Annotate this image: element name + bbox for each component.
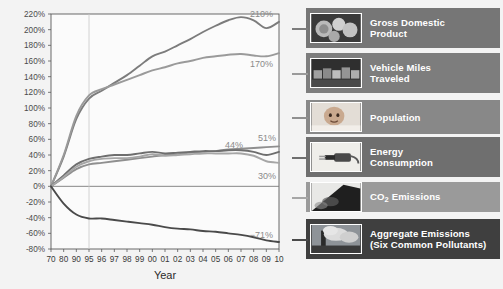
series-end-label: 51%	[258, 133, 276, 143]
x-axis-tick-label: 02	[173, 255, 183, 264]
legend-item-4[interactable]: EnergyConsumption	[306, 137, 500, 177]
legend-label-line-2: Consumption	[370, 157, 433, 168]
chart-plot-area: 220%200%180%160%140%120%100%80%60%40%20%…	[0, 0, 292, 289]
x-axis-tick-label: 09	[262, 255, 272, 264]
legend-connector-line	[292, 117, 308, 119]
legend-item-label: Aggregate Emissions(Six Common Pollutant…	[370, 228, 486, 250]
x-axis-tick-label: 96	[97, 255, 107, 264]
legend-label-line-1: CO2 Emissions	[370, 191, 441, 203]
y-axis-tick-label: 220%	[24, 10, 45, 19]
y-axis-tick-label: 120%	[24, 88, 45, 97]
x-axis-tick-label: 01	[160, 255, 170, 264]
legend-label-line-2: Traveled	[370, 73, 431, 84]
y-axis-tick-label: 100%	[24, 104, 45, 113]
y-axis-tick-label: 200%	[24, 26, 45, 35]
tailpipe-photo-thumb	[310, 182, 362, 212]
x-axis-tick-label: 06	[224, 255, 234, 264]
legend-item-5[interactable]: CO2 Emissions	[306, 182, 500, 212]
legend-item-label: Population	[370, 112, 421, 123]
baby-photo-thumb	[310, 102, 362, 132]
y-axis-tick-label: 140%	[24, 73, 45, 82]
legend-connector-line	[292, 239, 308, 241]
legend-label-line-1: Gross Domestic	[370, 17, 445, 28]
x-axis-tick-label: 03	[186, 255, 196, 264]
y-axis-tick-label: 20%	[29, 167, 45, 176]
y-axis-tick-label: -60%	[26, 229, 45, 238]
series-end-label: 170%	[250, 59, 273, 69]
growth-vs-emissions-chart: 220%200%180%160%140%120%100%80%60%40%20%…	[0, 0, 292, 289]
legend-label-line-1: Aggregate Emissions	[370, 228, 486, 239]
legend-item-label: EnergyConsumption	[370, 146, 433, 168]
money-photo-thumb	[310, 13, 362, 43]
plug-photo-thumb	[310, 142, 362, 172]
legend-connector-line	[292, 157, 308, 159]
series-end-label: 30%	[258, 171, 276, 181]
smokestack-photo-thumb	[310, 224, 362, 254]
x-axis-tick-label: 05	[211, 255, 221, 264]
legend-item-label: CO2 Emissions	[370, 191, 441, 203]
legend-label-line-1: Energy	[370, 146, 433, 157]
y-axis-tick-label: 180%	[24, 41, 45, 50]
series-end-label: 210%	[250, 9, 273, 19]
legend-item-label: Gross DomesticProduct	[370, 17, 445, 39]
legend-label-line-1: Population	[370, 112, 421, 123]
legend-connector-line	[292, 28, 308, 30]
series-end-label: 44%	[225, 140, 243, 150]
plot-frame	[51, 14, 279, 249]
y-axis-tick-label: 80%	[29, 120, 45, 129]
legend-item-1[interactable]: Gross DomesticProduct	[306, 8, 500, 48]
x-axis-tick-label: 07	[236, 255, 246, 264]
y-axis-tick-label: 160%	[24, 57, 45, 66]
x-axis-tick-label: 80	[59, 255, 69, 264]
legend-label-line-2: (Six Common Pollutants)	[370, 239, 486, 250]
x-axis-tick-label: 70	[46, 255, 56, 264]
y-axis-tick-label: -40%	[26, 214, 45, 223]
y-axis-tick-label: -80%	[26, 245, 45, 254]
y-axis-tick-label: 0%	[33, 182, 45, 191]
x-axis-tick-label: 99	[135, 255, 145, 264]
legend-item-3[interactable]: Population	[306, 100, 500, 134]
x-axis-tick-label: 10	[274, 255, 284, 264]
x-axis-tick-label: 98	[122, 255, 132, 264]
legend-item-label: Vehicle MilesTraveled	[370, 62, 431, 84]
legend-connector-line	[292, 73, 308, 75]
legend-connector-line	[292, 197, 308, 199]
chart-legend: Gross DomesticProduct Vehicle MilesTrave…	[292, 0, 503, 289]
chart-page: 220%200%180%160%140%120%100%80%60%40%20%…	[0, 0, 503, 289]
y-axis-tick-label: -20%	[26, 198, 45, 207]
x-axis-tick-label: 90	[72, 255, 82, 264]
x-axis-title: Year	[154, 269, 177, 281]
legend-item-2[interactable]: Vehicle MilesTraveled	[306, 53, 500, 93]
x-axis-tick-label: 08	[249, 255, 259, 264]
legend-item-6[interactable]: Aggregate Emissions(Six Common Pollutant…	[306, 219, 500, 259]
traffic-photo-thumb	[310, 58, 362, 88]
series-end-label: −71%	[250, 230, 273, 240]
y-axis-tick-label: 60%	[29, 135, 45, 144]
x-axis-tick-label: 04	[198, 255, 208, 264]
x-axis-tick-label: 95	[84, 255, 94, 264]
legend-label-line-2: Product	[370, 28, 445, 39]
x-axis-tick-label: 97	[110, 255, 120, 264]
legend-label-line-1: Vehicle Miles	[370, 62, 431, 73]
y-axis-tick-label: 40%	[29, 151, 45, 160]
x-axis-tick-label: 00	[148, 255, 158, 264]
